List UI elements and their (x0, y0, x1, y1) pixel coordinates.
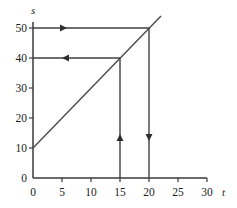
x-tick-label-0: 0 (30, 186, 36, 198)
x-tick-label-20: 20 (143, 186, 155, 198)
x-tick-label-15: 15 (114, 186, 126, 198)
x-tick-label-30: 30 (201, 186, 213, 198)
arrow-head-up-t15 (117, 134, 124, 141)
horizontal-arrow-s40 (33, 55, 120, 62)
arrow-head-right-s50 (60, 25, 67, 32)
x-tick-labels: 0 5 10 15 20 25 30 (30, 186, 213, 198)
y-tick-label-10: 10 (16, 142, 28, 154)
y-tick-label-30: 30 (16, 82, 28, 94)
x-axis-label: t (222, 186, 226, 198)
chart-canvas: 50 40 30 20 10 0 0 5 10 15 20 25 30 s t (0, 0, 237, 208)
y-tick-label-40: 40 (16, 52, 28, 64)
y-tick-label-20: 20 (16, 112, 28, 124)
data-line-group (33, 16, 161, 148)
vertical-arrow-t15 (117, 58, 124, 178)
x-tick-label-25: 25 (172, 186, 184, 198)
y-tick-labels: 50 40 30 20 10 0 (16, 22, 28, 184)
y-axis-label: s (31, 4, 35, 16)
vertical-arrow-t20 (146, 28, 153, 178)
y-tick-label-0: 0 (21, 172, 27, 184)
y-tick-label-50: 50 (16, 22, 28, 34)
x-tick-label-10: 10 (85, 186, 97, 198)
x-tick-label-5: 5 (59, 186, 65, 198)
arrow-head-left-s40 (62, 55, 69, 62)
data-line-s-equals-10-plus-2t (33, 16, 161, 148)
horizontal-arrow-s50 (33, 25, 149, 32)
axis-names: s t (31, 4, 226, 198)
arrow-head-down-t20 (146, 134, 153, 141)
chart-figure: 50 40 30 20 10 0 0 5 10 15 20 25 30 s t (0, 0, 237, 208)
